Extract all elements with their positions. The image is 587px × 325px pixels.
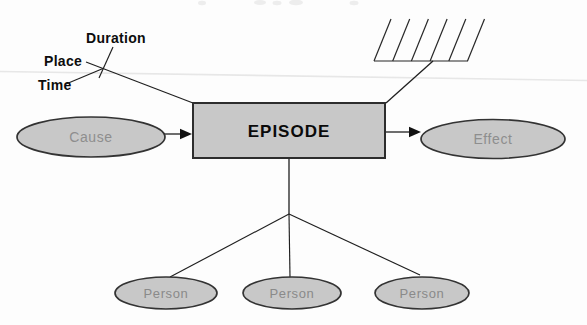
scan-smudge [350, 1, 359, 5]
episode-diagram-figure: Duration Place Time Cause Effect EPISODE… [0, 0, 587, 325]
attribute-label-place: Place [44, 53, 82, 69]
attribute-label-duration: Duration [86, 30, 146, 46]
effect-node-label: Effect [473, 131, 512, 147]
episode-diagram-canvas: Duration Place Time Cause Effect EPISODE… [0, 0, 587, 325]
attribute-label-time: Time [38, 77, 72, 93]
cause-node-label: Cause [69, 129, 112, 145]
person-node-1-label: Person [144, 286, 189, 301]
scan-smudge [254, 0, 266, 5]
person-node-2-label: Person [270, 286, 315, 301]
scan-smudge [198, 1, 206, 5]
episode-node-label: EPISODE [248, 122, 331, 141]
person-node-3-label: Person [400, 286, 445, 301]
scan-smudge [273, 1, 282, 5]
